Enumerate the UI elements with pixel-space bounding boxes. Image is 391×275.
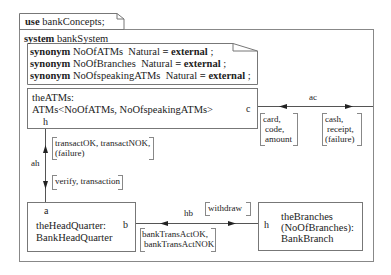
channel-label-ah: ah bbox=[31, 158, 40, 168]
system-keyword: system bbox=[24, 33, 54, 44]
synonym-line-1: synonym NoOfATMs Natural = external ; bbox=[30, 46, 213, 57]
package-name: bankConcepts; bbox=[42, 16, 104, 27]
signal-list-hb-left: bankTransActOK, bankTransActNOK bbox=[140, 228, 216, 252]
gate-h-atms: h bbox=[43, 117, 48, 127]
channel-label-ac: ac bbox=[309, 92, 317, 102]
headquarter-instance-name: theHeadQuarter: bbox=[36, 220, 106, 231]
system-header: system bankSystem bbox=[24, 33, 108, 44]
atms-type: ATMs<NoOfATMs, NoOfspeakingATMs> bbox=[32, 104, 213, 115]
atms-instance-name: theATMs: bbox=[32, 92, 74, 103]
gate-c-atms: c bbox=[246, 104, 250, 114]
use-clause: use bankConcepts; bbox=[25, 16, 105, 27]
branches-type: BankBranch bbox=[281, 233, 334, 244]
use-keyword: use bbox=[25, 16, 40, 27]
block-headquarter[interactable]: a theHeadQuarter: BankHeadQuarter b bbox=[27, 202, 136, 252]
synonym-line-2: synonym NoOfBranches Natural = external … bbox=[30, 58, 226, 69]
signal-list-hb-right: withdraw bbox=[205, 202, 251, 216]
synonym-line-3: synonym NoOfspeakingATMs Natural = exter… bbox=[30, 70, 251, 81]
signal-list-ah-up: transactOK, transactNOK, (failure) bbox=[52, 137, 154, 160]
signal-list-ac-in: card, code, amount bbox=[260, 113, 298, 146]
branches-instance-name: theBranches bbox=[281, 211, 333, 222]
gate-a-headquarter: a bbox=[44, 206, 48, 216]
gate-b-headquarter: b bbox=[123, 220, 128, 230]
headquarter-type: BankHeadQuarter bbox=[36, 232, 112, 243]
gate-h-branches: h bbox=[264, 220, 269, 230]
block-branches[interactable]: h theBranches (NoOfBranches): BankBranch bbox=[258, 202, 363, 251]
signal-list-ac-out: cash, receipt, (failure) bbox=[322, 113, 362, 146]
branches-count: (NoOfBranches): bbox=[281, 222, 354, 233]
signal-list-ah-down: verify, transaction bbox=[52, 175, 123, 190]
block-atms[interactable]: theATMs: ATMs<NoOfATMs, NoOfspeakingATMs… bbox=[27, 88, 258, 129]
channel-label-hb: hb bbox=[184, 208, 193, 218]
system-name: bankSystem bbox=[57, 33, 108, 44]
